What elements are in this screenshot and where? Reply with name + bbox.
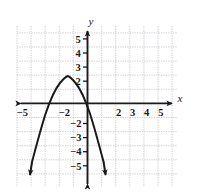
y-tick-label-4: 4 [75,48,81,59]
y-tick-label-5: 5 [75,34,80,45]
y-tick-label-2: 2 [75,76,80,87]
y-tick-label--2: −2 [70,118,81,129]
y-axis-label: y [88,15,94,27]
x-tick-label--2: −2 [59,107,70,118]
graph-figure: x y −5 −2 2 3 4 5 5 4 3 2 −2 −3 −4 −5 [0,0,198,195]
y-tick-label-3: 3 [75,62,80,73]
y-tick-label--4: −4 [70,146,82,157]
x-tick-label--5: −5 [17,107,28,118]
y-tick-label--5: −5 [70,161,81,172]
x-axis-label: x [177,92,183,104]
x-tick-label-4: 4 [144,107,150,118]
parabola-right-arrow [104,162,106,175]
coordinate-plane-svg: x y −5 −2 2 3 4 5 5 4 3 2 −2 −3 −4 −5 [0,0,198,195]
x-tick-label-3: 3 [130,107,135,118]
x-tick-label-5: 5 [158,107,163,118]
parabola-left-arrow [30,162,32,175]
x-tick-label-2: 2 [116,107,121,118]
y-tick-label--3: −3 [70,132,81,143]
